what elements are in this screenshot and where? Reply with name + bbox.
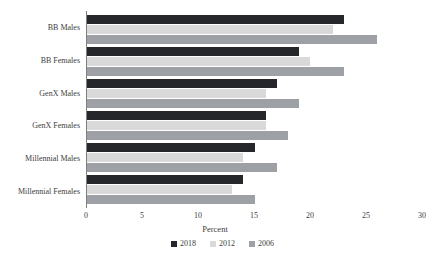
category-label: Millennial Males xyxy=(0,142,80,175)
bar-group xyxy=(87,110,422,142)
plot-area xyxy=(86,11,422,208)
legend-swatch-icon xyxy=(249,241,255,247)
bar-2006 xyxy=(87,163,277,172)
bar-2018 xyxy=(87,111,266,120)
bar-chart: BB MalesBB FemalesGenX MalesGenX Females… xyxy=(0,0,445,263)
x-tick-label: 0 xyxy=(84,211,88,220)
bar-2012 xyxy=(87,89,266,98)
legend-label: 2006 xyxy=(258,239,274,248)
bar-2018 xyxy=(87,143,255,152)
x-axis: 051015202530 xyxy=(86,211,422,221)
bar-2006 xyxy=(87,195,255,204)
bar-2012 xyxy=(87,25,333,34)
legend-swatch-icon xyxy=(210,241,216,247)
legend-label: 2012 xyxy=(219,239,235,248)
x-tick-label: 30 xyxy=(418,211,426,220)
x-tick-label: 15 xyxy=(250,211,258,220)
legend-item: 2018 xyxy=(171,239,196,248)
bar-group xyxy=(87,142,422,174)
y-axis-category-labels: BB MalesBB FemalesGenX MalesGenX Females… xyxy=(0,11,80,208)
category-label: BB Females xyxy=(0,44,80,77)
bar-2006 xyxy=(87,35,377,44)
x-tick-label: 20 xyxy=(306,211,314,220)
legend: 201820122006 xyxy=(0,239,445,248)
category-label: GenX Females xyxy=(0,109,80,142)
bar-group xyxy=(87,45,422,77)
bar-2006 xyxy=(87,131,288,140)
bar-2018 xyxy=(87,47,299,56)
bar-2012 xyxy=(87,153,243,162)
bar-2018 xyxy=(87,79,277,88)
legend-item: 2012 xyxy=(210,239,235,248)
bar-2006 xyxy=(87,99,299,108)
bar-2018 xyxy=(87,15,344,24)
bar-2012 xyxy=(87,185,232,194)
legend-item: 2006 xyxy=(249,239,274,248)
bar-group xyxy=(87,77,422,109)
bar-2012 xyxy=(87,57,310,66)
x-tick-label: 5 xyxy=(140,211,144,220)
category-label: BB Males xyxy=(0,11,80,44)
category-label: Millennial Females xyxy=(0,175,80,208)
x-tick-label: 25 xyxy=(362,211,370,220)
x-axis-title: Percent xyxy=(0,224,430,234)
bar-2018 xyxy=(87,175,243,184)
bar-group xyxy=(87,13,422,45)
legend-label: 2018 xyxy=(180,239,196,248)
bar-group xyxy=(87,174,422,206)
legend-swatch-icon xyxy=(171,241,177,247)
bar-2006 xyxy=(87,67,344,76)
bar-2012 xyxy=(87,121,266,130)
category-label: GenX Males xyxy=(0,77,80,110)
x-tick-label: 10 xyxy=(194,211,202,220)
